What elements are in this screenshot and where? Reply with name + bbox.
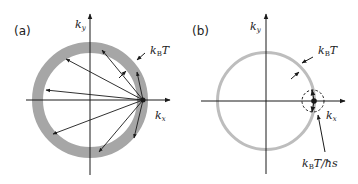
- kx-label-a: kx: [155, 109, 166, 123]
- ring-width-arrow-outer: [137, 53, 145, 60]
- ring-width-arrow-outer: [302, 57, 313, 63]
- diagram-canvas: (a) ky kx kBT (b) ky kx kBT kBT/ħs: [0, 0, 358, 184]
- ky-label-a: ky: [75, 18, 87, 32]
- kbt-label-b: kBT: [318, 44, 339, 58]
- panel-b: (b) ky kx kBT kBT/ħs: [192, 14, 345, 174]
- initial-state-dot: [141, 98, 146, 103]
- kbt-hs-label: kBT/ħs: [302, 157, 338, 171]
- kx-label-b: kx: [326, 109, 337, 123]
- kbt-hs-pointer: [318, 115, 325, 152]
- initial-state-dot: [311, 98, 317, 104]
- kbt-label-a: kBT: [150, 44, 171, 58]
- panel-label-a: (a): [14, 24, 31, 38]
- ky-label-b: ky: [250, 20, 262, 34]
- panel-label-b: (b): [192, 24, 209, 38]
- panel-a: (a) ky kx kBT: [14, 14, 171, 175]
- ring-width-arrow-inner: [291, 72, 299, 79]
